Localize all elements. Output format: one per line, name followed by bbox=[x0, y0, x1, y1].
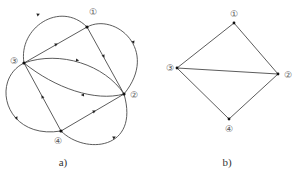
figure-a: ① ② ③ ④ a) bbox=[6, 7, 138, 169]
caption-b: b) bbox=[222, 156, 232, 169]
edge-a-3-4-arc bbox=[6, 63, 61, 132]
label-b-3: ③ bbox=[166, 63, 174, 73]
edge-a-4-2-straight bbox=[61, 94, 124, 131]
label-b-2: ② bbox=[284, 70, 292, 80]
node-b-4 bbox=[228, 118, 231, 121]
edge-a-1-2-straight bbox=[87, 27, 124, 94]
label-a-3: ③ bbox=[10, 56, 18, 66]
label-b-4: ④ bbox=[225, 124, 233, 134]
arrow-a-4-3-straight bbox=[40, 94, 44, 98]
edge-b-1-2 bbox=[234, 23, 278, 74]
node-b-1 bbox=[233, 22, 236, 25]
label-a-1: ① bbox=[89, 7, 97, 17]
node-a-2 bbox=[122, 92, 125, 95]
arrow-a-3-1-arc bbox=[36, 12, 40, 16]
edge-a-3-2-upper-arc bbox=[24, 58, 124, 94]
label-b-1: ① bbox=[230, 9, 238, 19]
label-a-2: ② bbox=[130, 90, 138, 100]
edge-a-3-1-arc bbox=[23, 16, 87, 63]
edge-b-3-2 bbox=[177, 68, 278, 74]
arrow-a-2-3-lower bbox=[81, 93, 84, 96]
node-a-1 bbox=[85, 25, 88, 28]
caption-a: a) bbox=[59, 156, 68, 169]
node-a-4 bbox=[59, 129, 62, 132]
diagram-canvas: ① ② ③ ④ a) ① ② ③ ④ b) bbox=[0, 0, 302, 178]
label-a-4: ④ bbox=[54, 136, 62, 146]
node-b-2 bbox=[277, 73, 280, 76]
node-b-3 bbox=[176, 67, 179, 70]
edge-b-4-2 bbox=[229, 74, 278, 119]
edge-b-3-4 bbox=[177, 68, 229, 119]
edge-a-4-2-arc bbox=[61, 94, 127, 145]
edge-a-1-2-arc bbox=[87, 24, 137, 94]
node-a-3 bbox=[22, 61, 25, 64]
edge-b-3-1 bbox=[177, 23, 234, 68]
figure-b: ① ② ③ ④ b) bbox=[166, 9, 292, 169]
